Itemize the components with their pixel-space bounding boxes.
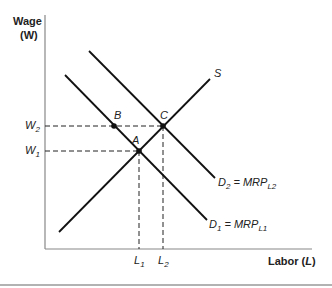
d1-label: D1 = MRPL1 [209, 218, 267, 233]
supply-label: S [214, 67, 221, 79]
y-axis-label-line1: Wage [13, 15, 42, 27]
y-axis-label-line2: (W) [20, 29, 38, 41]
x-axis-label: Labor (L) [268, 255, 316, 267]
demand-curve-d2 [89, 51, 215, 178]
x-tick-l2: L2 [158, 254, 169, 269]
supply-curve [59, 79, 210, 232]
point-b [111, 123, 117, 129]
y-tick-w1: W1 [25, 144, 40, 159]
point-label-c: C [160, 109, 168, 121]
y-tick-w2: W2 [25, 119, 40, 134]
point-label-b: B [114, 109, 121, 121]
x-tick-l1: L1 [134, 254, 145, 269]
point-c [160, 123, 166, 129]
chart-canvas [0, 0, 332, 288]
point-a [136, 148, 142, 154]
d2-label: D2 = MRPL2 [218, 176, 276, 191]
point-label-a: A [132, 134, 139, 146]
